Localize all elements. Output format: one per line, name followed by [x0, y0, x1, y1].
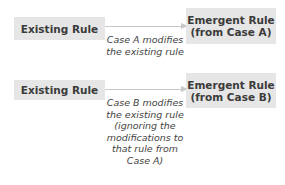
emergent-rule-b-line-2: (from Case B) [191, 91, 272, 103]
caption-a: Case A modifies the existing rule [105, 34, 185, 57]
existing-rule-label-a: Existing Rule [21, 23, 98, 35]
existing-rule-label-b: Existing Rule [21, 84, 98, 96]
emergent-rule-box-b: Emergent Rule (from Case B) [186, 73, 276, 108]
caption-b-line-6: Case A) [105, 155, 185, 167]
emergent-rule-a-line-1: Emergent Rule [187, 14, 274, 26]
caption-b-line-4: modifications to [105, 132, 185, 144]
caption-b-line-3: (ignoring the [105, 120, 185, 132]
existing-rule-box-b: Existing Rule [14, 80, 105, 100]
caption-b-line-1: Case B modifies [105, 97, 185, 109]
emergent-rule-b-line-1: Emergent Rule [187, 79, 274, 91]
caption-a-line-1: Case A modifies [105, 34, 185, 46]
caption-b-line-5: that rule from [105, 143, 185, 155]
emergent-rule-a-line-2: (from Case A) [190, 26, 271, 38]
caption-b-line-2: the existing rule [105, 109, 185, 121]
arrow-b [105, 89, 182, 90]
existing-rule-box-a: Existing Rule [14, 17, 105, 40]
caption-b: Case B modifies the existing rule (ignor… [105, 97, 185, 166]
arrow-a [105, 26, 182, 27]
caption-a-line-2: the existing rule [105, 46, 185, 58]
emergent-rule-box-a: Emergent Rule (from Case A) [186, 8, 276, 44]
